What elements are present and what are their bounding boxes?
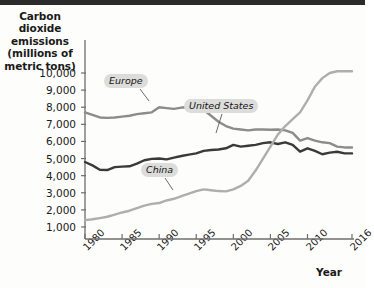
series-line-united-states (85, 142, 352, 170)
series-line-europe (85, 107, 352, 147)
series-line-china (85, 71, 352, 220)
series-label-europe: Europe (104, 74, 148, 88)
series-label-united-states: United States (184, 99, 258, 113)
series-label-china: China (141, 163, 178, 177)
leader-line-china (165, 178, 173, 190)
leader-line-europe (140, 89, 149, 101)
